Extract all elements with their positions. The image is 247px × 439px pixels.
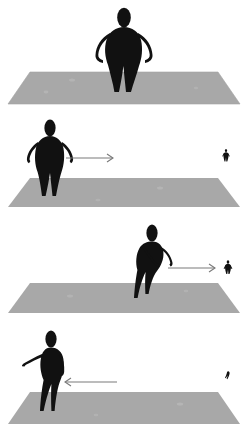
distant-figure-head xyxy=(227,260,230,263)
panel-4-graphic xyxy=(0,320,247,439)
panel-3 xyxy=(0,215,247,320)
ground-plane xyxy=(8,72,240,104)
figure-head xyxy=(146,224,157,241)
figure-head xyxy=(45,330,56,347)
panel-1-graphic xyxy=(0,0,247,110)
ground-plane xyxy=(8,283,240,313)
panel-2-graphic xyxy=(0,110,247,215)
ground-speck xyxy=(95,199,100,202)
ground-speck xyxy=(157,187,163,190)
distant-figure-body xyxy=(223,152,228,161)
ground-speck xyxy=(94,414,99,416)
distant-figure-head xyxy=(225,149,227,152)
ground-speck xyxy=(194,87,198,89)
motion-arrow-right xyxy=(66,154,113,162)
figure-head xyxy=(44,120,55,137)
figure-arm-left xyxy=(22,354,44,366)
distant-figure xyxy=(222,149,230,161)
ground-speck xyxy=(69,78,75,81)
panel-2 xyxy=(0,110,247,215)
distant-figure-body xyxy=(225,371,230,379)
panel-4 xyxy=(0,320,247,439)
motion-arrow-right xyxy=(168,264,215,272)
ground-speck xyxy=(177,402,183,405)
panel-1 xyxy=(0,0,247,110)
distant-figure xyxy=(224,260,233,274)
distant-figure xyxy=(225,371,230,379)
figure-head xyxy=(117,8,131,28)
illustration-canvas: Four-panel silhouette motion sequence xyxy=(0,0,247,439)
motion-arrow-left xyxy=(65,378,117,386)
distant-figure-body xyxy=(225,264,231,274)
ground-speck xyxy=(67,295,73,298)
panel-3-graphic xyxy=(0,215,247,320)
ground-speck xyxy=(184,290,189,292)
ground-speck xyxy=(44,91,49,94)
